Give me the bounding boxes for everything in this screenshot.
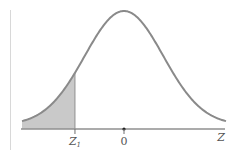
axis-end-label: Z — [216, 131, 225, 144]
bell-curve — [22, 11, 226, 121]
mean-tick-label: 0 — [121, 135, 128, 148]
left-tail-shaded-area — [22, 73, 75, 129]
normal-distribution-chart: Z1 0 Z — [0, 0, 241, 157]
z1-tick-label: Z1 — [68, 135, 81, 149]
